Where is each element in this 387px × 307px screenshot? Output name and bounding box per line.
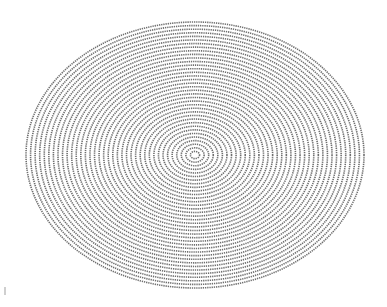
ellipse-rings xyxy=(26,22,364,288)
ellipse-ring xyxy=(53,44,336,267)
ellipse-ring xyxy=(126,101,263,209)
ellipse-ring xyxy=(190,151,199,158)
ellipse-ring xyxy=(67,54,323,255)
ellipse-ring xyxy=(95,76,296,234)
ellipse-ring xyxy=(158,126,231,184)
ellipse-ring xyxy=(145,115,245,194)
ellipse-ring xyxy=(63,51,328,259)
scan-artifact-mark xyxy=(4,287,6,295)
ellipse-ring xyxy=(113,90,277,219)
ellipse-ring xyxy=(35,29,355,281)
ellipse-ring xyxy=(81,65,309,245)
ellipse-ring xyxy=(108,87,282,224)
ellipse-ring xyxy=(49,40,341,270)
ellipse-ring xyxy=(85,69,304,242)
ellipse-ring xyxy=(140,112,250,198)
concentric-ellipses-figure xyxy=(0,0,387,307)
ellipse-ring xyxy=(186,148,204,162)
ellipse-ring xyxy=(168,133,223,176)
ellipse-ring xyxy=(172,137,218,173)
ellipse-ring xyxy=(154,123,236,188)
ellipse-ring xyxy=(99,80,291,231)
